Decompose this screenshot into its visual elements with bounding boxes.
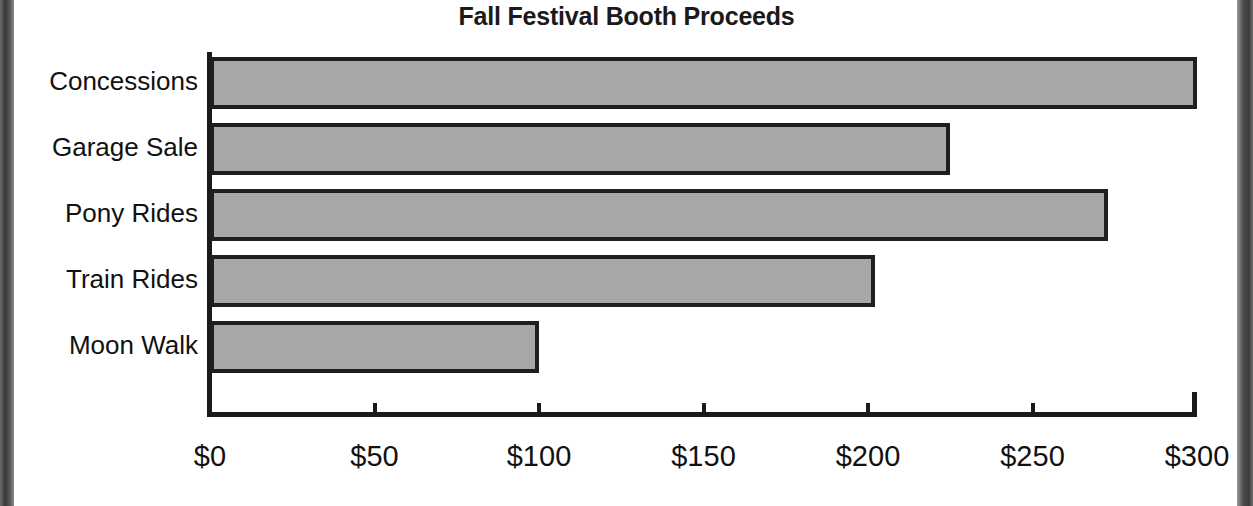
bar-train-rides <box>210 255 875 307</box>
x-axis-tick-label: $50 <box>350 440 398 473</box>
x-axis-tick <box>373 403 377 413</box>
x-axis-tick-label: $0 <box>194 440 226 473</box>
x-axis-tick-label: $250 <box>1000 440 1065 473</box>
x-axis-tick <box>866 403 870 413</box>
scan-edge-artifact-right <box>1237 0 1253 506</box>
bar-concessions <box>210 57 1197 109</box>
x-axis-tick-label: $300 <box>1165 440 1230 473</box>
category-label-train-rides: Train Rides <box>66 264 198 295</box>
x-axis-tick-label: $200 <box>836 440 901 473</box>
category-label-concessions: Concessions <box>49 66 198 97</box>
x-axis-tick-label: $150 <box>671 440 736 473</box>
bar-pony-rides <box>210 189 1108 241</box>
x-axis-tick <box>1031 403 1035 413</box>
category-label-pony-rides: Pony Rides <box>65 198 198 229</box>
x-axis-tick-label: $100 <box>507 440 572 473</box>
scan-edge-artifact-left <box>0 0 14 506</box>
x-axis-tick <box>702 403 706 413</box>
x-axis-tick <box>537 403 541 413</box>
category-label-garage-sale: Garage Sale <box>52 132 198 163</box>
chart-title: Fall Festival Booth Proceeds <box>0 2 1253 31</box>
chart-page: Fall Festival Booth Proceeds Concessions… <box>0 0 1253 506</box>
bar-garage-sale <box>210 123 950 175</box>
x-axis-right-end-cap <box>1192 392 1197 417</box>
bar-moon-walk <box>210 321 539 373</box>
category-label-moon-walk: Moon Walk <box>69 330 198 361</box>
